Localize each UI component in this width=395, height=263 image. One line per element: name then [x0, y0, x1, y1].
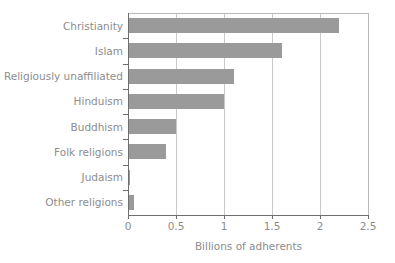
- y-tick: [123, 165, 128, 166]
- y-tick: [123, 139, 128, 140]
- x-axis-title: Billions of adherents: [128, 240, 369, 252]
- y-axis-label-folk-religions: Folk religions: [3, 146, 123, 158]
- x-tick-label-0.5: 0.5: [168, 220, 185, 232]
- bar-religiously-unaffiliated: [128, 69, 234, 84]
- y-axis-label-judaism: Judaism: [3, 171, 123, 183]
- x-tick-label-2.5: 2.5: [360, 220, 377, 232]
- x-tick-1: [224, 215, 225, 219]
- bar-row: [128, 38, 368, 63]
- bar-christianity: [128, 18, 339, 33]
- plot-frame-top: [128, 13, 369, 14]
- y-tick: [123, 64, 128, 65]
- x-tick-label-1.5: 1.5: [264, 220, 281, 232]
- plot-area: [128, 13, 368, 215]
- y-tick: [123, 114, 128, 115]
- x-tick-label-0: 0: [125, 220, 132, 232]
- x-tick-0.5: [176, 215, 177, 219]
- y-axis-label-hinduism: Hinduism: [3, 95, 123, 107]
- bar-row: [128, 64, 368, 89]
- y-axis-label-religiously-unaffiliated: Religiously unaffiliated: [3, 70, 123, 82]
- y-axis-label-christianity: Christianity: [3, 20, 123, 32]
- bar-islam: [128, 43, 282, 58]
- bar-folk-religions: [128, 144, 166, 159]
- x-tick-0: [128, 215, 129, 219]
- y-axis-label-islam: Islam: [3, 45, 123, 57]
- x-tick-label-2: 2: [317, 220, 324, 232]
- x-tick-1.5: [272, 215, 273, 219]
- y-tick: [123, 38, 128, 39]
- plot-frame-right: [368, 13, 369, 216]
- x-tick-label-1: 1: [221, 220, 228, 232]
- x-axis-line: [128, 215, 369, 216]
- y-axis-labels: ChristianityIslamReligiously unaffiliate…: [0, 13, 123, 215]
- x-tick-2.5: [368, 215, 369, 219]
- bar-buddhism: [128, 119, 176, 134]
- bar-chart: ChristianityIslamReligiously unaffiliate…: [0, 0, 395, 263]
- y-axis-label-buddhism: Buddhism: [3, 121, 123, 133]
- bar-row: [128, 165, 368, 190]
- bar-row: [128, 139, 368, 164]
- bar-hinduism: [128, 94, 224, 109]
- x-tick-2: [320, 215, 321, 219]
- bar-row: [128, 114, 368, 139]
- bar-row: [128, 13, 368, 38]
- bar-row: [128, 89, 368, 114]
- y-axis-line: [128, 13, 129, 216]
- bar-row: [128, 190, 368, 215]
- y-axis-label-other-religions: Other religions: [3, 196, 123, 208]
- y-tick: [123, 89, 128, 90]
- y-tick: [123, 190, 128, 191]
